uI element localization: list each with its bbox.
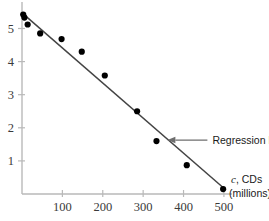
- y-tick-label: 5: [8, 22, 14, 36]
- y-tick-label: 2: [8, 121, 14, 135]
- data-point: [58, 36, 64, 42]
- data-point: [134, 108, 140, 114]
- data-point: [153, 138, 159, 144]
- data-point: [79, 49, 85, 55]
- regression-line-label: Regression line: [212, 134, 269, 146]
- data-point: [102, 72, 108, 78]
- data-point: [184, 162, 190, 168]
- x-tick-label: 400: [174, 200, 193, 214]
- chart-svg: 12345 100200300400500 Regression line c,…: [0, 0, 269, 221]
- data-point: [21, 14, 27, 20]
- x-axis-label-rest: , CDs: [236, 173, 262, 185]
- scatter-chart: 12345 100200300400500 Regression line c,…: [0, 0, 269, 221]
- data-point: [220, 186, 226, 192]
- x-axis-label-units: (millions): [229, 187, 269, 199]
- x-tick-label: 500: [215, 200, 234, 214]
- x-axis-label-line1: c, CDs: [231, 173, 262, 185]
- x-tick-label: 200: [93, 200, 112, 214]
- data-point: [25, 21, 31, 27]
- x-tick-label: 300: [134, 200, 153, 214]
- y-tick-label: 1: [8, 154, 14, 168]
- y-tick-label: 3: [8, 88, 14, 102]
- x-tick-label: 100: [53, 200, 72, 214]
- y-tick-label: 4: [8, 55, 15, 69]
- data-point: [37, 30, 43, 36]
